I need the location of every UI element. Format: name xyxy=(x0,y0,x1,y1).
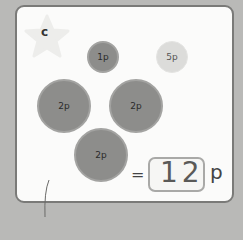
coin-5p: 5p xyxy=(156,41,188,73)
coin-value: 2p xyxy=(58,101,69,111)
pen-mark xyxy=(42,180,50,217)
question-label: c xyxy=(41,25,48,39)
coin-2p: 2p xyxy=(74,128,128,182)
coin-value: 5p xyxy=(166,52,177,62)
unit-label: p xyxy=(210,160,223,184)
coin-value: 2p xyxy=(130,101,141,111)
coin-2p: 2p xyxy=(109,79,163,133)
coin-1p: 1p xyxy=(87,41,119,73)
coin-value: 1p xyxy=(97,52,108,62)
coin-value: 2p xyxy=(95,150,106,160)
coin-2p: 2p xyxy=(37,79,91,133)
equals-sign: = xyxy=(131,165,144,184)
answer-value: 12 xyxy=(160,156,204,189)
